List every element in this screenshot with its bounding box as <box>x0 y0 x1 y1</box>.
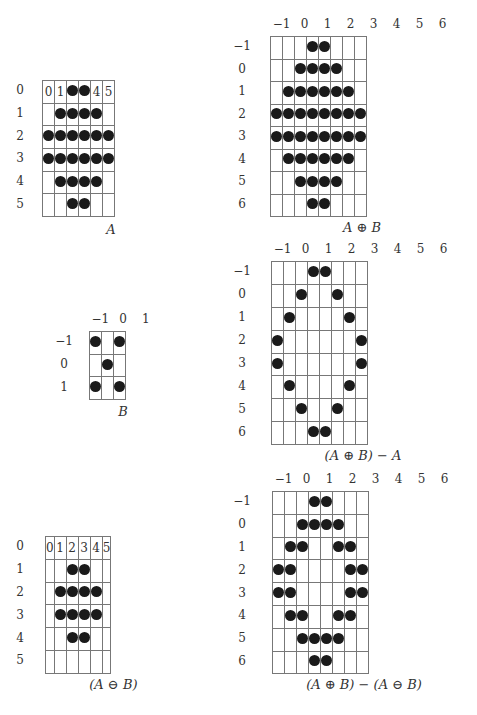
grid-cell <box>78 605 90 628</box>
grid-cell <box>331 127 343 150</box>
filled-pixel-dot-icon <box>331 108 342 119</box>
grid-cell <box>333 492 345 515</box>
grid-cell <box>308 376 320 399</box>
grid-cell: 1 <box>55 81 67 104</box>
column-label: 2 <box>340 242 363 256</box>
pixel-grid <box>271 261 368 445</box>
filled-pixel-dot-icon <box>319 131 330 142</box>
filled-pixel-dot-icon <box>319 153 330 164</box>
filled-pixel-dot-icon <box>356 335 367 346</box>
grid-cell <box>43 171 55 194</box>
grid-cell <box>283 194 295 217</box>
grid-cell <box>344 284 356 307</box>
cell-index-label: 5 <box>103 541 111 555</box>
grid-cell <box>54 605 66 628</box>
grid-cell <box>90 332 102 355</box>
grid-cell <box>344 376 356 399</box>
grid-cell <box>309 605 321 628</box>
row-label: 4 <box>8 174 32 188</box>
row-label: −1 <box>52 334 76 348</box>
filled-pixel-dot-icon <box>332 403 343 414</box>
grid-cell <box>319 37 331 60</box>
grid-cell <box>357 651 369 674</box>
grid-cell <box>355 149 367 172</box>
grid-cell <box>333 560 345 583</box>
filled-pixel-dot-icon <box>103 153 114 164</box>
filled-pixel-dot-icon <box>103 130 114 141</box>
filled-pixel-dot-icon <box>297 541 308 552</box>
filled-pixel-dot-icon <box>91 153 102 164</box>
filled-pixel-dot-icon <box>55 176 66 187</box>
grid-cell <box>308 284 320 307</box>
grid-cell <box>344 330 356 353</box>
row-label: 3 <box>8 151 32 165</box>
grid-cell <box>297 560 309 583</box>
column-label: 5 <box>408 17 431 31</box>
grid-cell <box>355 82 367 105</box>
row-label: 2 <box>8 585 32 599</box>
grid-cell <box>332 284 344 307</box>
filled-pixel-dot-icon <box>90 336 101 347</box>
grid-cell: 4 <box>90 537 102 560</box>
filled-pixel-dot-icon <box>319 63 330 74</box>
filled-pixel-dot-icon <box>272 335 283 346</box>
filled-pixel-dot-icon <box>295 86 306 97</box>
grid-cell <box>357 514 369 537</box>
filled-pixel-dot-icon <box>67 198 78 209</box>
grid-cell <box>91 194 103 217</box>
filled-pixel-dot-icon <box>295 108 306 119</box>
filled-pixel-dot-icon <box>309 496 320 507</box>
grid-cell <box>308 262 320 285</box>
grid-cell <box>55 149 67 172</box>
grid-cell <box>67 149 79 172</box>
filled-pixel-dot-icon <box>90 381 101 392</box>
pixel-grid: 012345 <box>45 536 111 674</box>
grid-cell <box>43 103 55 126</box>
grid-cell <box>308 399 320 422</box>
grid-cell <box>345 605 357 628</box>
grid-cell <box>284 262 296 285</box>
filled-pixel-dot-icon <box>319 198 330 209</box>
column-label: 0 <box>112 312 135 326</box>
grid-cell <box>355 104 367 127</box>
column-label: 3 <box>364 472 387 486</box>
filled-pixel-dot-icon <box>67 85 78 96</box>
grid-caption: A ⊕ B <box>230 220 477 235</box>
row-label: −1 <box>230 39 254 53</box>
grid-cell <box>309 628 321 651</box>
grid-cell <box>271 104 283 127</box>
grid-cell <box>285 628 297 651</box>
grid-cell <box>320 262 332 285</box>
grid-cell <box>102 605 111 628</box>
grid-cell <box>309 583 321 606</box>
filled-pixel-dot-icon <box>296 289 307 300</box>
filled-pixel-dot-icon <box>321 655 332 666</box>
filled-pixel-dot-icon <box>79 198 90 209</box>
grid-cell <box>273 651 285 674</box>
column-label: −1 <box>89 312 112 326</box>
filled-pixel-dot-icon <box>307 131 318 142</box>
grid-cell <box>67 194 79 217</box>
grid-cell <box>307 59 319 82</box>
grid-cell <box>46 605 55 628</box>
grid-cell: 2 <box>66 537 78 560</box>
filled-pixel-dot-icon <box>43 153 54 164</box>
grid-cell <box>103 103 115 126</box>
column-label: −1 <box>271 242 294 256</box>
grid-cell <box>307 127 319 150</box>
grid-cell <box>309 537 321 560</box>
grid-cell <box>343 37 355 60</box>
filled-pixel-dot-icon <box>331 153 342 164</box>
column-label: 4 <box>387 472 410 486</box>
filled-pixel-dot-icon <box>114 336 125 347</box>
grid-cell <box>356 262 368 285</box>
grid-cell <box>356 284 368 307</box>
column-label: 5 <box>410 472 433 486</box>
grid-cell <box>355 172 367 195</box>
filled-pixel-dot-icon <box>344 380 355 391</box>
grid-cell <box>345 537 357 560</box>
grid-cell <box>333 583 345 606</box>
grid-cell <box>320 399 332 422</box>
grid-cell <box>295 149 307 172</box>
row-label: 3 <box>8 608 32 622</box>
